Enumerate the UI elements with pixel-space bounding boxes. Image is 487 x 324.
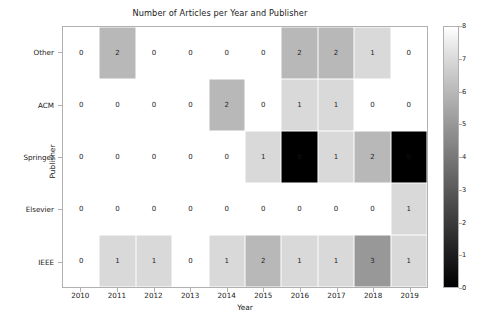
heatmap-cell: 0 (391, 27, 427, 79)
colorbar-tick-mark (459, 157, 462, 158)
heatmap-cell-value: 0 (79, 102, 83, 109)
heatmap-cell: 0 (63, 79, 99, 131)
heatmap-cell: 0 (172, 79, 208, 131)
heatmap-cell: 0 (136, 79, 172, 131)
heatmap-cell: 0 (209, 131, 245, 183)
heatmap-cell-value: 0 (407, 50, 411, 57)
x-tick-mark (117, 288, 118, 292)
heatmap-cell-value: 0 (188, 50, 192, 57)
heatmap-cell: 2 (318, 27, 354, 79)
heatmap-cell-value: 0 (79, 154, 83, 161)
heatmap-cell-value: 0 (152, 154, 156, 161)
heatmap-cell-value: 0 (261, 206, 265, 213)
y-axis-label: Publisher (48, 102, 57, 222)
colorbar-tick-mark (459, 190, 462, 191)
colorbar-tick-mark (459, 26, 462, 27)
heatmap-cell-value: 0 (115, 206, 119, 213)
heatmap-cell-value: 0 (407, 102, 411, 109)
heatmap-figure: Number of Articles per Year and Publishe… (0, 0, 487, 324)
heatmap-cell: 3 (354, 235, 390, 287)
heatmap-cell-value: 1 (334, 154, 338, 161)
heatmap-cell-value: 0 (188, 154, 192, 161)
heatmap-cell: 0 (99, 79, 135, 131)
colorbar-tick-label-5: 5 (462, 120, 466, 128)
x-tick-label-2017: 2017 (317, 291, 357, 300)
heatmap-plot-area: 0200002210000020110000000181280000000001… (62, 26, 428, 288)
heatmap-cell-value: 2 (115, 50, 119, 57)
heatmap-cell: 8 (281, 131, 317, 183)
heatmap-cell-value: 0 (188, 206, 192, 213)
heatmap-cell-value: 0 (152, 102, 156, 109)
heatmap-cell-value: 1 (297, 102, 301, 109)
heatmap-cell-value: 0 (115, 154, 119, 161)
x-tick-label-2018: 2018 (353, 291, 393, 300)
colorbar-tick-label-1: 1 (462, 251, 466, 259)
heatmap-cell: 0 (245, 183, 281, 235)
heatmap-cell: 1 (209, 235, 245, 287)
x-tick-mark (300, 288, 301, 292)
heatmap-cell-value: 0 (334, 206, 338, 213)
heatmap-cell-value: 0 (188, 102, 192, 109)
heatmap-cell-value: 1 (152, 258, 156, 265)
heatmap-cell: 2 (209, 79, 245, 131)
heatmap-cell: 0 (99, 183, 135, 235)
colorbar-tick-label-0: 0 (462, 284, 466, 292)
x-tick-label-2013: 2013 (170, 291, 210, 300)
heatmap-cell: 1 (354, 27, 390, 79)
heatmap-cell-value: 1 (225, 258, 229, 265)
y-tick-mark (58, 52, 62, 53)
heatmap-cell: 0 (63, 235, 99, 287)
heatmap-cell: 1 (318, 235, 354, 287)
heatmap-cell: 8 (391, 131, 427, 183)
heatmap-cell: 1 (391, 183, 427, 235)
y-tick-label-elsevier: Elsevier (26, 205, 54, 214)
heatmap-cell: 0 (63, 27, 99, 79)
heatmap-cell: 0 (172, 235, 208, 287)
heatmap-cell: 0 (281, 183, 317, 235)
heatmap-cell: 0 (354, 183, 390, 235)
heatmap-cell: 0 (63, 183, 99, 235)
colorbar-tick-label-6: 6 (462, 88, 466, 96)
heatmap-cell-value: 0 (152, 206, 156, 213)
heatmap-cell-value: 0 (225, 154, 229, 161)
y-tick-label-acm: ACM (38, 100, 54, 109)
heatmap-cell-value: 1 (261, 154, 265, 161)
heatmap-cell-value: 3 (370, 258, 374, 265)
heatmap-cell-value: 8 (407, 154, 411, 161)
heatmap-cell-value: 0 (79, 50, 83, 57)
heatmap-cell-value: 0 (115, 102, 119, 109)
colorbar-tick-label-4: 4 (462, 153, 466, 161)
heatmap-cell-value: 1 (407, 206, 411, 213)
heatmap-cell-value: 0 (370, 206, 374, 213)
heatmap-cell: 0 (136, 183, 172, 235)
heatmap-cell: 1 (136, 235, 172, 287)
heatmap-cell-value: 0 (152, 50, 156, 57)
y-tick-mark (58, 105, 62, 106)
heatmap-cell: 1 (318, 131, 354, 183)
heatmap-cell-value: 1 (334, 102, 338, 109)
heatmap-cell-value: 0 (370, 102, 374, 109)
heatmap-cell-value: 1 (334, 258, 338, 265)
colorbar-tick-label-2: 2 (462, 219, 466, 227)
heatmap-cell: 0 (172, 131, 208, 183)
heatmap-cell: 0 (245, 27, 281, 79)
y-tick-label-springer: Springer (23, 153, 54, 162)
y-tick-label-other: Other (34, 48, 54, 57)
heatmap-cell-value: 1 (297, 258, 301, 265)
heatmap-cell: 2 (281, 27, 317, 79)
heatmap-cell-value: 1 (115, 258, 119, 265)
colorbar-tick-mark (459, 124, 462, 125)
heatmap-cell: 0 (209, 183, 245, 235)
heatmap-cell-grid: 0200002210000020110000000181280000000001… (63, 27, 427, 287)
x-tick-mark (154, 288, 155, 292)
heatmap-cell: 1 (318, 79, 354, 131)
x-tick-label-2016: 2016 (280, 291, 320, 300)
x-tick-label-2014: 2014 (207, 291, 247, 300)
heatmap-cell: 0 (136, 131, 172, 183)
heatmap-cell-value: 0 (261, 102, 265, 109)
heatmap-cell: 0 (63, 131, 99, 183)
x-tick-mark (80, 288, 81, 292)
colorbar-tick-mark (459, 288, 462, 289)
heatmap-cell: 0 (318, 183, 354, 235)
colorbar-tick-mark (459, 59, 462, 60)
